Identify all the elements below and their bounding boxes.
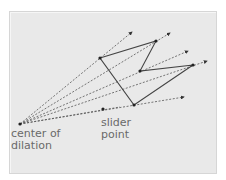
slider-label-line2: point — [101, 129, 131, 141]
slider-point[interactable] — [101, 107, 104, 110]
slider-point-label: slider point — [101, 117, 131, 141]
preimage-polygon — [100, 41, 193, 105]
vertex-point[interactable] — [132, 103, 135, 106]
center-of-dilation-label: center of dilation — [11, 128, 61, 152]
center-of-dilation-point[interactable] — [18, 122, 21, 125]
dilation-rays — [20, 32, 207, 124]
vertex-point[interactable] — [154, 39, 157, 42]
vertex-point[interactable] — [138, 69, 141, 72]
vertex-point[interactable] — [98, 56, 101, 59]
vertex-point[interactable] — [191, 63, 194, 66]
center-label-line2: dilation — [11, 140, 61, 152]
dilation-diagram — [0, 0, 226, 180]
